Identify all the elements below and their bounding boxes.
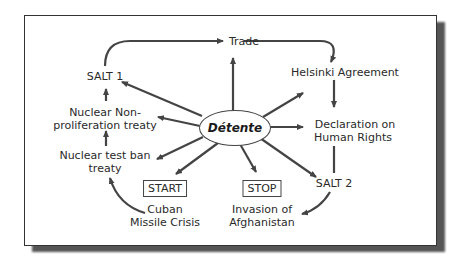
node-salt2: SALT 2 [316,177,353,190]
arrow-to-helsinki [263,93,303,117]
node-declaration-line2: Human Rights [314,131,392,144]
detente-label: Détente [208,121,262,135]
node-trade: Trade [229,35,259,48]
detente-center-node: Détente [199,110,271,146]
node-testban-line1: Nuclear test ban [59,149,150,162]
node-helsinki: Helsinki Agreement [291,66,399,79]
node-declaration-line1: Declaration on [315,118,396,131]
arrow-salt1-to-trade [105,41,223,66]
arrow-to-salt2 [260,138,316,177]
arrow-cuban-to-testban [110,178,145,213]
arrow-to-test-ban [157,137,203,159]
node-cuban-line2: Missile Crisis [130,216,200,229]
node-salt1: SALT 1 [87,70,124,83]
node-cuban-line1: Cuban [147,203,182,216]
start-box: START [143,180,187,197]
node-testban-line2: treaty [89,162,122,175]
node-invasion-line2: Afghanistan [229,216,294,229]
arrow-to-nonprolif [158,117,200,126]
node-invasion-line1: Invasion of [232,203,292,216]
node-nonprolif-line2: proliferation treaty [53,119,157,132]
stop-box: STOP [243,180,282,197]
arrow-to-stop [240,144,256,172]
arrow-salt2-to-invasion [302,192,330,214]
node-nonprolif-line1: Nuclear Non- [69,106,141,119]
